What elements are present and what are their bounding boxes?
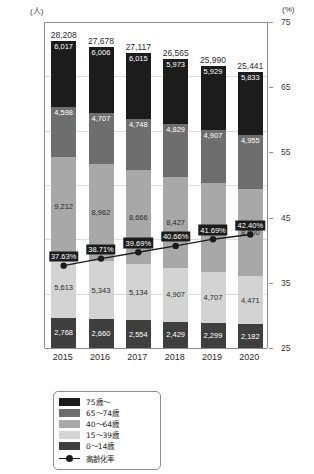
right-axis-tick-label: 55 xyxy=(281,147,314,157)
x-axis-tick-label: 2020 xyxy=(239,352,259,362)
right-axis-tickmark xyxy=(269,283,273,284)
right-axis-tick-label: 45 xyxy=(281,213,314,223)
left-axis-unit-label: (人) xyxy=(30,5,43,16)
bar-segment-label: 4,598 xyxy=(51,108,76,117)
gridline xyxy=(45,76,267,77)
bar-segment: 4,829 xyxy=(163,124,188,176)
bar-segment: 4,907 xyxy=(163,268,188,321)
aging-rate-value-label: 38.71% xyxy=(86,244,115,255)
bar-segment: 5,973 xyxy=(163,59,188,124)
aging-rate-value-label: 39.69% xyxy=(124,238,153,249)
bar-segment-label: 2,299 xyxy=(201,331,226,340)
legend-swatch xyxy=(59,442,80,450)
bar-segment: 4,707 xyxy=(201,272,226,323)
bar-segment-label: 8,427 xyxy=(163,218,188,227)
right-axis-unit-label: (%) xyxy=(282,5,294,14)
bar-segment-label: 5,929 xyxy=(201,67,226,76)
right-axis-tickmark xyxy=(269,218,273,219)
right-axis-tickmark xyxy=(269,22,273,23)
bar-segment-label: 4,471 xyxy=(238,296,263,305)
right-axis-tick-label: 35 xyxy=(281,278,314,288)
right-axis-tickmark xyxy=(269,87,273,88)
legend-item: 40～64歳 xyxy=(59,418,155,429)
bar-segment: 2,429 xyxy=(163,322,188,348)
bar-segment-label: 2,182 xyxy=(238,332,263,341)
bar-segment-label: 2,660 xyxy=(89,329,114,338)
x-axis-tick-label: 2017 xyxy=(127,352,147,362)
bar-segment: 2,182 xyxy=(238,324,263,348)
gridline xyxy=(45,239,267,240)
bar-segment: 6,006 xyxy=(89,47,114,112)
bar-column: 2,1824,4718,0004,9555,83325,441 xyxy=(238,72,263,348)
bar-column: 2,4294,9078,4274,8295,97326,565 xyxy=(163,59,188,348)
bar-segment: 4,471 xyxy=(238,276,263,325)
legend-swatch xyxy=(59,409,80,417)
right-axis-tickmark xyxy=(269,348,273,349)
bar-segment-label: 6,017 xyxy=(51,42,76,51)
bar-column: 2,7685,6139,2124,5986,01728,208 xyxy=(51,41,76,348)
bar-segment-label: 2,429 xyxy=(163,330,188,339)
bar-segment: 8,000 xyxy=(238,189,263,276)
aging-rate-value-label: 37.63% xyxy=(49,251,78,262)
bar-segment-label: 4,907 xyxy=(163,290,188,299)
x-axis-tick-label: 2015 xyxy=(53,352,73,362)
bar-total-label: 28,208 xyxy=(44,30,83,40)
legend-item: 0～14歳 xyxy=(59,440,155,451)
bar-segment: 4,748 xyxy=(126,119,151,171)
bar-segment-label: 2,768 xyxy=(51,328,76,337)
bar-segment: 6,017 xyxy=(51,41,76,106)
bar-segment: 2,768 xyxy=(51,318,76,348)
x-axis-tick-label: 2019 xyxy=(202,352,222,362)
right-axis-tickmark xyxy=(269,152,273,153)
bar-segment: 6,015 xyxy=(126,53,151,118)
gridline xyxy=(45,22,267,23)
bar-segment: 4,707 xyxy=(89,113,114,164)
bar-segment-label: 4,707 xyxy=(89,114,114,123)
bar-segment-label: 4,829 xyxy=(163,125,188,134)
bar-column: 2,2994,7078,1484,9075,92925,990 xyxy=(201,66,226,348)
bar-segment-label: 6,015 xyxy=(126,54,151,63)
bar-total-label: 25,441 xyxy=(231,61,270,71)
right-axis-tick-label: 25 xyxy=(281,343,314,353)
bar-segment: 8,666 xyxy=(126,170,151,264)
aging-rate-value-label: 42.40% xyxy=(236,220,265,231)
gridline xyxy=(45,131,267,132)
right-axis-tick-label: 75 xyxy=(281,17,314,27)
bar-segment: 5,613 xyxy=(51,257,76,318)
gridline xyxy=(45,348,267,349)
bar-segment: 5,343 xyxy=(89,261,114,319)
bar-segment-label: 4,907 xyxy=(201,131,226,140)
legend-label-aging-rate: 高齢化率 xyxy=(86,453,114,464)
bar-segment-label: 6,006 xyxy=(89,48,114,57)
bar-total-label: 25,990 xyxy=(194,55,233,65)
legend-label: 40～64歳 xyxy=(86,418,119,429)
bar-segment: 4,955 xyxy=(238,135,263,189)
bar-segment: 5,929 xyxy=(201,66,226,130)
legend-swatch xyxy=(59,420,80,428)
bar-segment: 2,660 xyxy=(89,319,114,348)
bar-total-label: 27,678 xyxy=(82,36,121,46)
bar-segment-label: 4,955 xyxy=(238,136,263,145)
legend-swatch xyxy=(59,398,80,406)
bar-segment: 4,598 xyxy=(51,107,76,157)
legend-item-aging-rate: 高齢化率 xyxy=(59,452,155,465)
right-axis-tick-label: 65 xyxy=(281,82,314,92)
bar-segment: 9,212 xyxy=(51,157,76,257)
bar-segment-label: 5,833 xyxy=(238,73,263,82)
bar-segment-label: 4,707 xyxy=(201,293,226,302)
legend-label: 65～74歳 xyxy=(86,407,119,418)
legend-items: 75歳～65～74歳40～64歳15～39歳0～14歳 xyxy=(59,396,155,451)
bar-segment: 2,554 xyxy=(126,320,151,348)
legend-label: 75歳～ xyxy=(86,396,110,407)
bar-segment: 5,134 xyxy=(126,264,151,320)
gridline xyxy=(45,185,267,186)
x-axis-tick-label: 2018 xyxy=(165,352,185,362)
legend-item: 15～39歳 xyxy=(59,429,155,440)
legend-item: 75歳～ xyxy=(59,396,155,407)
bar-segment: 4,907 xyxy=(201,130,226,183)
bar-total-label: 26,565 xyxy=(156,48,195,58)
bar-segment-label: 4,748 xyxy=(126,120,151,129)
bar-segment-label: 9,212 xyxy=(51,202,76,211)
x-axis-tick-label: 2016 xyxy=(90,352,110,362)
bar-total-label: 27,117 xyxy=(119,42,158,52)
